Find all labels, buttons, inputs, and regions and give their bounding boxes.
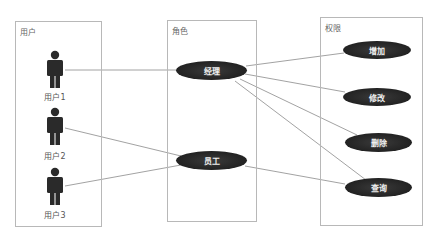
user-icon (45, 167, 65, 207)
actor-user1: 用户1 (45, 50, 65, 102)
user-icon (45, 107, 65, 147)
actor-label: 用户3 (35, 209, 75, 220)
permission-label: 增加 (369, 45, 385, 56)
permission-delete: 删除 (345, 133, 412, 152)
actor-label: 用户2 (35, 150, 75, 161)
roles-panel-title: 角色 (172, 25, 188, 36)
permission-add: 增加 (343, 41, 411, 59)
permission-label: 修改 (369, 92, 385, 103)
role-label: 经理 (204, 65, 220, 76)
roles-panel: 角色 (167, 20, 257, 222)
permission-edit: 修改 (343, 88, 411, 106)
users-panel-title: 用户 (20, 26, 36, 37)
permission-label: 删除 (371, 137, 387, 148)
actor-user3: 用户3 (45, 167, 65, 219)
actor-user2: 用户2 (45, 107, 65, 159)
role-label: 员工 (204, 155, 220, 166)
role-manager: 经理 (176, 61, 247, 80)
permissions-panel-title: 权限 (325, 22, 341, 33)
permission-query: 查询 (345, 178, 412, 197)
rbac-diagram: 用户 角色 权限 用户1 用户2 用户3 (0, 0, 438, 242)
user-icon (45, 50, 65, 90)
permission-label: 查询 (371, 182, 387, 193)
role-employee: 员工 (176, 151, 247, 170)
actor-label: 用户1 (35, 91, 75, 102)
